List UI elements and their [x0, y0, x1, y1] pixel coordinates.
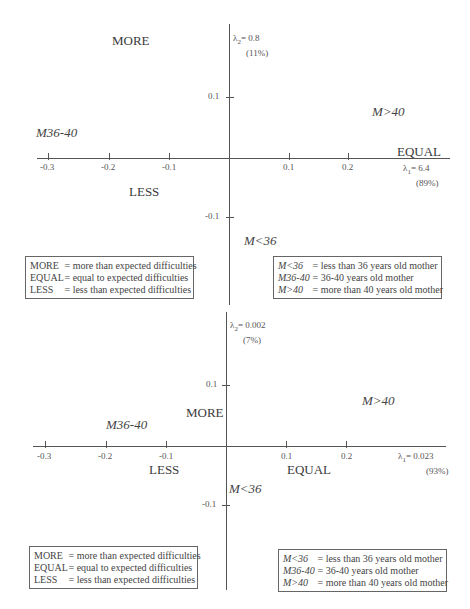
legend-row: M36-40 = 36-40 years old mother — [283, 565, 442, 577]
point-less: LESS — [149, 462, 179, 478]
legend-row: EQUAL = equal to expected difficulties — [34, 562, 193, 574]
x-tick — [45, 441, 46, 448]
x-tick-label: -0.1 — [159, 451, 173, 461]
legend-row: M>40 = more than 40 years old mother — [283, 577, 442, 589]
x-tick-label: 0.1 — [281, 451, 292, 461]
y-tick — [222, 505, 230, 506]
y-axis — [226, 312, 227, 590]
biplot-bottom: -0.3 -0.2 -0.1 0.1 0.2 0.1 -0.1 λ2= 0.00… — [0, 0, 470, 609]
point-m-gt-40: M>40 — [362, 393, 395, 409]
lambda2-label: λ2= 0.002 (7%) — [230, 320, 265, 346]
x-tick — [346, 441, 347, 448]
x-axis — [33, 446, 446, 447]
point-more: MORE — [186, 405, 224, 421]
point-m-lt-36: M<36 — [229, 481, 262, 497]
x-tick-label: -0.3 — [37, 451, 51, 461]
legend-mother-age: M<36 = less than 36 years old mother M36… — [278, 549, 447, 592]
point-equal: EQUAL — [287, 462, 331, 478]
x-tick — [286, 441, 287, 448]
y-tick — [222, 385, 230, 386]
x-tick — [166, 441, 167, 448]
legend-row: LESS = less than expected difficulties — [34, 574, 193, 586]
y-tick-label: -0.1 — [202, 499, 216, 509]
y-tick-label: 0.1 — [206, 379, 217, 389]
x-tick-label: -0.2 — [98, 451, 112, 461]
legend-row: MORE = more than expected difficulties — [34, 550, 193, 562]
legend-row: M<36 = less than 36 years old mother — [283, 553, 442, 565]
x-tick — [106, 441, 107, 448]
lambda1-label: λ1= 0.023 (93%) — [398, 451, 449, 477]
legend-difficulty: MORE = more than expected difficulties E… — [29, 546, 198, 589]
point-m36-40: M36-40 — [106, 417, 147, 433]
x-tick-label: 0.2 — [341, 451, 352, 461]
